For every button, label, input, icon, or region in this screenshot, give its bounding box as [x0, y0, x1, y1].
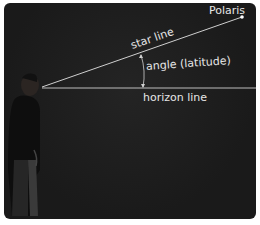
angle-arc	[141, 55, 144, 87]
person-figure-icon	[8, 74, 40, 217]
arc-arrow-top-icon	[139, 54, 143, 58]
horizon-line-label: horizon line	[143, 92, 207, 103]
diagram-graphics	[0, 0, 260, 225]
polaris-label: Polaris	[209, 5, 245, 16]
star-line	[42, 17, 242, 87]
arc-arrow-bottom-icon	[141, 84, 145, 88]
